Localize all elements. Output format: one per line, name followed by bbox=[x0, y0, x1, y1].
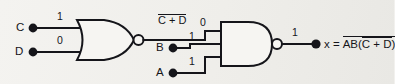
signal-value-b: 1 bbox=[189, 31, 195, 42]
signal-value-a: 1 bbox=[189, 56, 195, 67]
output-equation-inner-bar: C + D bbox=[362, 37, 392, 50]
nand-gate-bubble-icon bbox=[272, 39, 282, 49]
input-node-c[interactable] bbox=[29, 24, 38, 33]
nand-gate-body bbox=[221, 22, 272, 66]
signal-value-nand-output: 1 bbox=[292, 27, 298, 38]
nor-output-expression-bar: C + D bbox=[158, 14, 186, 27]
signal-value-c: 1 bbox=[57, 11, 63, 22]
wire-a-to-nand-in3 bbox=[178, 57, 221, 73]
wire-nor-out-to-nand-in1 bbox=[144, 31, 222, 40]
output-equation-prefix: x = bbox=[324, 38, 340, 50]
input-label-c: C bbox=[16, 22, 24, 34]
input-node-b[interactable] bbox=[169, 44, 178, 53]
nor-output-expression: C + D bbox=[158, 14, 186, 27]
nor-gate-body bbox=[77, 20, 134, 60]
signal-value-d: 0 bbox=[57, 35, 63, 46]
input-node-a[interactable] bbox=[169, 69, 178, 78]
output-node-x[interactable] bbox=[311, 39, 320, 48]
input-label-b: B bbox=[156, 42, 164, 54]
input-node-d[interactable] bbox=[29, 48, 38, 57]
wire-b-to-nand-in2 bbox=[178, 44, 221, 48]
output-equation-lead: AB( bbox=[343, 38, 362, 50]
signal-value-nor-output: 0 bbox=[200, 17, 206, 28]
input-label-a: A bbox=[156, 67, 164, 79]
nor-gate-bubble-icon bbox=[134, 35, 144, 45]
output-equation-outer-bar: AB(C + D) bbox=[343, 36, 395, 50]
input-label-d: D bbox=[15, 46, 23, 58]
output-equation: x =AB(C + D) bbox=[324, 36, 395, 51]
output-equation-tail: ) bbox=[392, 38, 395, 50]
